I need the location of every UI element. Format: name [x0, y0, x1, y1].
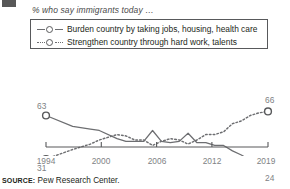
value-label-burden-start: 63	[37, 101, 47, 111]
source-prefix: SOURCE:	[2, 177, 35, 184]
endpoint-marker-burden-start	[43, 112, 50, 119]
legend-label-burden: Burden country by taking jobs, housing, …	[67, 24, 257, 35]
value-label-strengthen-end: 66	[265, 95, 275, 105]
legend-item-burden: Burden country by taking jobs, housing, …	[37, 23, 267, 36]
source-text: Pew Research Center.	[35, 176, 119, 185]
legend-marker-solid-circle-icon	[37, 24, 63, 35]
chart-subtitle: % who say immigrants today …	[32, 5, 154, 15]
x-tick-label-2: 2006	[148, 156, 167, 166]
legend-item-strengthen: Strengthen country through hard work, ta…	[37, 36, 267, 49]
source-note: SOURCE: Pew Research Center.	[2, 176, 120, 185]
series-line-burden	[46, 116, 268, 156]
x-tick-label-4: 2019	[257, 156, 276, 166]
legend-marker-dotted-circle-icon	[37, 37, 63, 48]
x-axis-labels: 1994 2000 2006 2012 2019	[0, 156, 290, 168]
x-axis-ticks	[46, 142, 268, 147]
series-line-strengthen	[46, 111, 268, 156]
value-label-burden-end: 24	[265, 173, 275, 183]
x-tick-label-1: 2000	[92, 156, 111, 166]
x-tick-label-3: 2012	[203, 156, 222, 166]
chart-legend: Burden country by taking jobs, housing, …	[30, 19, 268, 49]
chart-plot-area: 63 31 66 24	[0, 52, 290, 156]
endpoint-marker-strengthen-end	[265, 108, 272, 115]
x-tick-label-0: 1994	[37, 156, 56, 166]
legend-label-strengthen: Strengthen country through hard work, ta…	[67, 37, 237, 48]
cropped-image-fragment	[2, 0, 16, 7]
